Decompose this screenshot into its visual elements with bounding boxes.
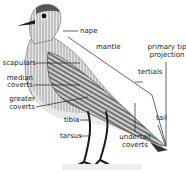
label-greater-coverts-2: coverts [0,104,35,111]
label-tarsus: tarsus [60,133,82,140]
label-undertail-coverts-1: undertail [115,134,155,141]
label-tertials: tertials [138,69,163,76]
label-nape: nape [80,28,97,35]
label-greater-coverts-1: greater [0,96,35,103]
label-tail: tail [156,115,167,122]
label-mantle: mantle [96,44,121,51]
label-primary-tip-projection-2: projection [147,52,186,59]
label-primary-tip-projection-1: primary tip [147,44,186,51]
label-scapulars: scapulars [0,60,36,67]
label-undertail-coverts-2: coverts [115,142,155,149]
bird-anatomy-diagram: nape mantle primary tip projection terti… [0,0,186,173]
bird-eye [42,14,47,19]
label-tibia: tibia [64,117,79,124]
label-median-coverts-2: coverts [0,82,33,89]
